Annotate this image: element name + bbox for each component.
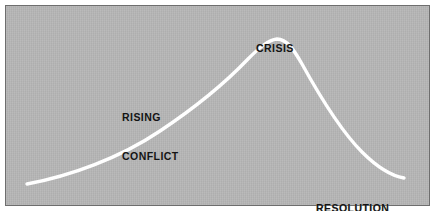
label-rising-conflict-line2: CONFLICT <box>122 150 179 163</box>
narrative-arc-figure: CRISIS RISING CONFLICT RESOLUTION <box>0 0 435 211</box>
label-crisis-text: CRISIS <box>256 42 294 55</box>
arc-path <box>27 39 404 184</box>
label-rising-conflict: RISING CONFLICT <box>122 85 179 189</box>
label-crisis: CRISIS <box>256 16 294 81</box>
label-rising-conflict-line1: RISING <box>122 111 179 124</box>
label-resolution-text: RESOLUTION <box>316 202 389 211</box>
label-resolution: RESOLUTION <box>316 176 389 211</box>
